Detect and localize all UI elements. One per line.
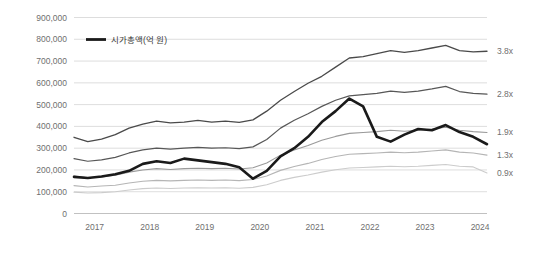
x-axis-tick-label: 2020 bbox=[250, 222, 269, 232]
y-axis-tick-label: 200,000 bbox=[36, 165, 67, 175]
gridlines bbox=[74, 18, 487, 214]
y-axis-tick-label: 500,000 bbox=[36, 100, 67, 110]
line-chart: 900,000800,000700,000600,000500,000400,0… bbox=[0, 0, 539, 255]
x-axis-tick-label: 2024 bbox=[471, 222, 490, 232]
chart-canvas: 900,000800,000700,000600,000500,000400,0… bbox=[0, 0, 539, 255]
y-axis-tick-label: 900,000 bbox=[36, 13, 67, 23]
x-axis-tick-label: 2017 bbox=[85, 222, 104, 232]
y-axis-tick-label: 300,000 bbox=[36, 143, 67, 153]
x-axis-tick-labels: 20172018201920202021202220232024 bbox=[85, 222, 490, 232]
y-axis-tick-labels: 900,000800,000700,000600,000500,000400,0… bbox=[36, 13, 67, 219]
legend-label-market-cap: 시가총액(억 원) bbox=[111, 35, 167, 45]
y-axis-tick-label: 600,000 bbox=[36, 78, 67, 88]
series-line bbox=[74, 45, 487, 141]
x-axis-tick-label: 2019 bbox=[195, 222, 214, 232]
data-series bbox=[74, 45, 487, 193]
right-multiple-label: 1.9x bbox=[497, 127, 514, 137]
right-multiple-label: 2.8x bbox=[497, 89, 514, 99]
x-axis-tick-label: 2023 bbox=[416, 222, 435, 232]
series-line bbox=[74, 86, 487, 161]
y-axis-tick-label: 100,000 bbox=[36, 187, 67, 197]
right-multiple-label: 1.3x bbox=[497, 150, 514, 160]
y-axis-tick-label: 400,000 bbox=[36, 121, 67, 131]
x-axis-tick-label: 2021 bbox=[305, 222, 324, 232]
y-axis-tick-label: 800,000 bbox=[36, 34, 67, 44]
x-axis-tick-label: 2018 bbox=[140, 222, 159, 232]
right-multiple-label: 0.9x bbox=[497, 168, 514, 178]
y-axis-tick-label: 0 bbox=[62, 209, 67, 219]
y-axis-tick-label: 700,000 bbox=[36, 56, 67, 66]
right-multiple-label: 3.8x bbox=[497, 46, 514, 56]
chart-legend: 시가총액(억 원) bbox=[86, 35, 167, 45]
series-line bbox=[74, 99, 487, 179]
right-multiple-labels: 3.8x2.8x1.9x1.3x0.9x bbox=[497, 46, 514, 178]
x-axis-tick-label: 2022 bbox=[361, 222, 380, 232]
